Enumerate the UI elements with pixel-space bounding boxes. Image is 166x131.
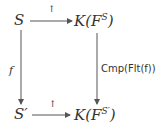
node-bottom-right-base: K(F [74, 106, 101, 124]
node-top-left: S [14, 13, 24, 28]
top-arrow-label: ↑ [48, 5, 56, 14]
node-top-right: K(FS) [74, 13, 114, 29]
node-bottom-right-sup: S′ [101, 106, 109, 116]
node-bottom-left: S′ [14, 107, 28, 122]
bottom-arrow-label: ↑ [49, 100, 57, 109]
node-top-right-close: ) [108, 12, 114, 30]
node-bottom-right: K(FS′) [74, 107, 116, 123]
node-top-right-base: K(F [74, 12, 101, 30]
left-arrow-label: f [9, 65, 13, 76]
node-bottom-right-close: ) [110, 106, 116, 124]
right-arrow-label: Cmp(Flt(f)) [101, 64, 156, 74]
